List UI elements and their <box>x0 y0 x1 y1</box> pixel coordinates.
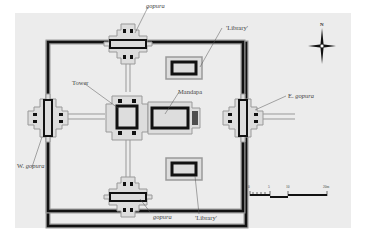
scale-tick-5: 5 <box>268 185 270 189</box>
label-east-gopura: E. gopura <box>288 93 314 100</box>
scale-bar <box>250 191 327 198</box>
label-north-gopura: gopura <box>146 3 165 10</box>
label-east-prefix: E. <box>288 92 294 99</box>
label-west-prefix: W. <box>17 162 24 169</box>
label-south-gopura: gopura <box>153 214 172 221</box>
scale-tick-20m: 20m <box>323 185 329 189</box>
north-arrow-icon <box>308 28 336 64</box>
label-library-south: 'Library' <box>195 215 217 222</box>
label-west-gopura: W. gopura <box>17 163 45 170</box>
temple-plan-drawing <box>0 0 367 240</box>
label-library-north: 'Library' <box>226 25 248 32</box>
label-mandapa: Mandapa <box>178 89 202 96</box>
label-west-gopura-text: gopura <box>26 162 45 169</box>
scale-tick-0: 0 <box>248 185 250 189</box>
north-label: N <box>320 22 324 27</box>
label-tower: Tower <box>72 80 89 87</box>
scale-tick-10: 10 <box>286 185 290 189</box>
label-east-gopura-text: gopura <box>295 92 314 99</box>
